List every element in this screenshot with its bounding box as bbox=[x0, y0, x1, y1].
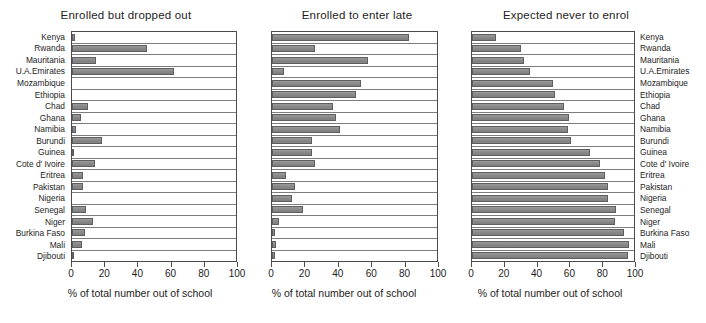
axis-tick-label: 100 bbox=[430, 268, 447, 279]
axis-tick bbox=[438, 262, 439, 267]
bar bbox=[272, 137, 312, 144]
chart-title: Enrolled but dropped out bbox=[14, 9, 238, 21]
chart-row bbox=[72, 113, 236, 125]
bar bbox=[472, 172, 605, 179]
bar bbox=[72, 114, 81, 121]
category-label: Rwanda bbox=[637, 43, 706, 55]
bar bbox=[272, 160, 315, 167]
chart-row bbox=[272, 228, 437, 240]
bar bbox=[72, 160, 95, 167]
chart-row bbox=[472, 55, 634, 67]
chart-row bbox=[272, 159, 437, 171]
axis-tick bbox=[171, 262, 172, 267]
category-label: Burkina Faso bbox=[637, 227, 706, 239]
axis-tick bbox=[371, 262, 372, 267]
chart-row bbox=[472, 159, 634, 171]
bar bbox=[472, 195, 608, 202]
bar bbox=[72, 68, 174, 75]
bar bbox=[272, 183, 295, 190]
bar bbox=[72, 252, 74, 259]
chart-row bbox=[472, 216, 634, 228]
category-label: Djibouti bbox=[637, 250, 706, 262]
bar bbox=[472, 91, 555, 98]
chart-row bbox=[72, 136, 236, 148]
chart-row bbox=[472, 136, 634, 148]
bar bbox=[472, 206, 616, 213]
bar bbox=[72, 218, 93, 225]
x-axis-title: % of total number out of school bbox=[30, 287, 250, 299]
chart-row bbox=[472, 78, 634, 90]
chart-row bbox=[72, 239, 236, 251]
chart-row bbox=[72, 44, 236, 56]
chart-panel-enter-late: Enrolled to enter late 020406080100 % of… bbox=[246, 0, 468, 323]
category-label: Niger bbox=[637, 216, 706, 228]
bar bbox=[72, 103, 88, 110]
bar bbox=[72, 149, 74, 156]
category-label: Mali bbox=[0, 239, 68, 251]
category-label: U.A.Emirates bbox=[0, 66, 68, 78]
axis-tick bbox=[104, 262, 105, 267]
category-label: Mauritania bbox=[0, 54, 68, 66]
chart-title: Enrolled to enter late bbox=[246, 9, 468, 21]
bar bbox=[272, 91, 356, 98]
chart-row bbox=[72, 228, 236, 240]
axis-tick-label: 20 bbox=[498, 268, 509, 279]
axis-tick-label: 40 bbox=[332, 268, 343, 279]
axis-tick-label: 20 bbox=[99, 268, 110, 279]
bar bbox=[472, 103, 564, 110]
category-label: Namibia bbox=[0, 123, 68, 135]
category-label: Eritrea bbox=[0, 170, 68, 182]
category-label: Ethiopia bbox=[637, 89, 706, 101]
chart-row bbox=[472, 67, 634, 79]
category-label: Senegal bbox=[637, 204, 706, 216]
x-axis-title: % of total number out of school bbox=[440, 287, 660, 299]
category-label: U.A.Emirates bbox=[637, 66, 706, 78]
bar bbox=[472, 45, 521, 52]
bar bbox=[472, 68, 530, 75]
bar bbox=[472, 137, 571, 144]
chart-row bbox=[272, 147, 437, 159]
chart-row bbox=[472, 32, 634, 44]
chart-row bbox=[272, 170, 437, 182]
bar bbox=[472, 160, 600, 167]
chart-row bbox=[272, 251, 437, 262]
bar bbox=[472, 252, 628, 259]
bar bbox=[72, 183, 83, 190]
chart-title: Expected never to enrol bbox=[454, 9, 678, 21]
chart-row bbox=[272, 216, 437, 228]
chart-row bbox=[272, 78, 437, 90]
category-label: Cote d' Ivoire bbox=[637, 158, 706, 170]
chart-row bbox=[72, 216, 236, 228]
bar bbox=[272, 114, 336, 121]
chart-row bbox=[472, 44, 634, 56]
axis-tick-label: 40 bbox=[531, 268, 542, 279]
bar bbox=[272, 206, 303, 213]
chart-row bbox=[72, 101, 236, 113]
bar bbox=[272, 103, 333, 110]
bar bbox=[472, 149, 590, 156]
bar bbox=[472, 57, 524, 64]
chart-row bbox=[72, 32, 236, 44]
chart-row bbox=[272, 182, 437, 194]
category-label: Burundi bbox=[0, 135, 68, 147]
category-label: Namibia bbox=[637, 123, 706, 135]
bar bbox=[272, 252, 275, 259]
plot-area bbox=[471, 31, 635, 262]
chart-row bbox=[72, 124, 236, 136]
bar bbox=[272, 45, 315, 52]
bar bbox=[472, 183, 608, 190]
category-label: Ghana bbox=[0, 112, 68, 124]
bar bbox=[272, 218, 279, 225]
axis-tick bbox=[504, 262, 505, 267]
bar bbox=[72, 206, 86, 213]
bar bbox=[472, 229, 624, 236]
x-axis: 020406080100 bbox=[271, 262, 438, 284]
axis-tick bbox=[537, 262, 538, 267]
bar bbox=[472, 114, 569, 121]
axis-tick-label: 60 bbox=[564, 268, 575, 279]
axis-tick bbox=[137, 262, 138, 267]
chart-row bbox=[472, 90, 634, 102]
chart-row bbox=[72, 170, 236, 182]
axis-tick-label: 0 bbox=[468, 268, 474, 279]
chart-row bbox=[472, 228, 634, 240]
